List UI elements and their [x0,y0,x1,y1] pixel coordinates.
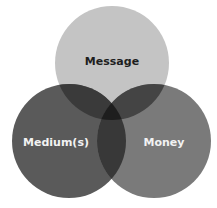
money-label: Money [144,136,185,149]
medium-label: Medium(s) [23,136,89,149]
venn-diagram: Message Medium(s) Money [0,0,217,208]
message-label: Message [85,55,139,68]
